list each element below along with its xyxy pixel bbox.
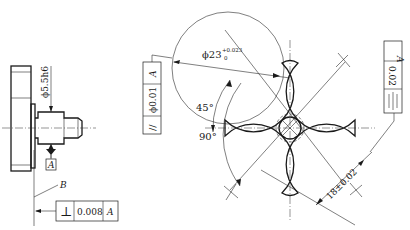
diameter-dimension-text: ϕ5.5h6 bbox=[40, 66, 50, 98]
angle-45-text: 45° bbox=[196, 102, 214, 113]
circle-diameter-text: ϕ23 bbox=[202, 49, 222, 60]
diagonal-line-1 bbox=[225, 30, 345, 185]
hub-step bbox=[31, 104, 35, 168]
perpendicularity-icon: ⊥ bbox=[60, 204, 72, 219]
parallelism-datum: A bbox=[148, 70, 158, 78]
perpendicularity-datum: A bbox=[106, 207, 114, 217]
perpendicularity-tolerance-frame: ⊥ 0.008 A bbox=[56, 201, 118, 221]
perpendicularity-value: 0.008 bbox=[77, 207, 103, 217]
datum-triangle bbox=[46, 149, 56, 155]
symmetry-datum: A bbox=[395, 55, 405, 63]
diameter-leader bbox=[174, 62, 290, 78]
linear-dimension-text: 18±0.02 bbox=[324, 167, 359, 202]
parallelism-icon: // bbox=[147, 124, 158, 131]
surface-b-leader bbox=[34, 185, 58, 197]
symmetry-value: 0.02 bbox=[387, 66, 397, 86]
angle-90-text: 90° bbox=[199, 131, 217, 142]
right-view: ϕ23 +0.023 0 45° 90° 18±0.02 A ϕ0.01 // bbox=[143, 12, 405, 225]
surface-b-label: B bbox=[59, 180, 67, 190]
flange-outline bbox=[11, 66, 31, 171]
parallelism-leader bbox=[152, 55, 172, 62]
parallelism-tolerance-frame: A ϕ0.01 // bbox=[143, 62, 161, 134]
symmetry-tolerance-frame: A 0.02 bbox=[384, 41, 405, 113]
datum-a-label: A bbox=[47, 160, 55, 170]
circle-diameter-lower-tol: 0 bbox=[224, 55, 228, 61]
parallelism-value: ϕ0.01 bbox=[148, 87, 158, 113]
circle-diameter-upper-tol: +0.023 bbox=[222, 47, 243, 53]
left-view: ϕ5.5h6 A B ⊥ 0.008 A bbox=[2, 66, 118, 226]
symmetry-leader bbox=[370, 113, 394, 152]
technical-drawing: ϕ5.5h6 A B ⊥ 0.008 A bbox=[0, 0, 410, 230]
